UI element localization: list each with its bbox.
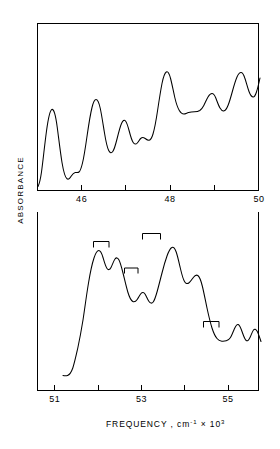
figure-canvas: 46 48 50 51 53 55 (0, 0, 280, 449)
upper-xtick-label-48: 48 (164, 194, 175, 204)
x-axis-label-main: FREQUENCY , cm (106, 419, 190, 429)
lower-xtick-label-53: 53 (136, 394, 147, 404)
spectrum-figure: 46 48 50 51 53 55 (0, 0, 280, 449)
upper-spectrum-trace (38, 72, 260, 187)
peak-bracket-1 (94, 242, 110, 248)
x-axis-label-times: × 10 (197, 419, 221, 429)
upper-panel: 46 48 50 (38, 24, 265, 205)
svg-text:FREQUENCY , cm-1 × 103: FREQUENCY , cm-1 × 103 (106, 419, 225, 429)
upper-panel-ticks (82, 185, 259, 191)
upper-xtick-label-50: 50 (253, 194, 264, 204)
x-axis-label-exp2: 3 (221, 419, 225, 425)
x-axis-label: FREQUENCY , cm-1 × 103 (106, 419, 225, 429)
peak-bracket-3 (143, 234, 161, 240)
lower-xtick-label-55: 55 (222, 394, 233, 404)
lower-xtick-label-51: 51 (49, 394, 60, 404)
lower-panel-ticks (55, 385, 228, 391)
lower-panel: 51 53 55 (38, 212, 262, 404)
upper-panel-frame (38, 24, 259, 191)
lower-spectrum-trace (63, 247, 261, 376)
y-axis-label: ABSORBANCE (16, 156, 25, 224)
upper-xtick-label-46: 46 (76, 194, 87, 204)
x-axis-label-exp1: -1 (190, 419, 197, 425)
peak-bracket-2 (125, 268, 139, 274)
